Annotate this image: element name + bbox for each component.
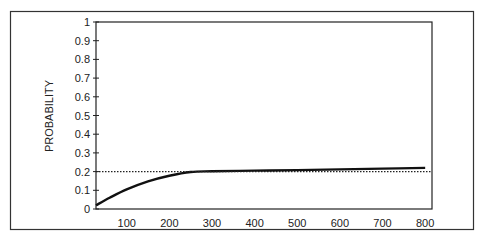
x-tick-label: 100 [118,217,136,229]
y-tick-label: 0.1 [75,184,90,196]
y-tick-label: 0.2 [75,166,90,178]
y-tick-label: 0.6 [75,91,90,103]
x-tick-label: 400 [245,217,263,229]
x-tick-label: 500 [288,217,306,229]
x-tick-label: 600 [331,217,349,229]
y-tick-label: 0.9 [75,35,90,47]
x-tick-label: 300 [203,217,221,229]
y-tick-label: 0.8 [75,53,90,65]
y-tick-label: 1 [84,16,90,28]
y-tick-label: 0.5 [75,110,90,122]
y-tick-label: 0.7 [75,72,90,84]
x-tick-label: 700 [373,217,391,229]
x-tick-label: 800 [416,217,434,229]
y-tick-label: 0.4 [75,128,90,140]
y-tick-label: 0.3 [75,147,90,159]
probability-chart: 00.10.20.30.40.50.60.70.80.9110020030040… [0,0,481,243]
y-axis-title: PROBABILITY [43,79,55,152]
y-tick-label: 0 [84,203,90,215]
x-tick-label: 200 [160,217,178,229]
